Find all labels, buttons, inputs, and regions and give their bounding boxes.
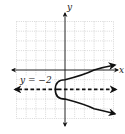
x-axis-label: x	[119, 66, 124, 75]
y-axis-label: y	[67, 3, 72, 12]
line-equation-label: y = −2	[20, 76, 52, 85]
parabola-lower-arm	[55, 89, 115, 113]
coordinate-plane	[0, 0, 125, 134]
parabola-upper-arm	[55, 65, 115, 89]
